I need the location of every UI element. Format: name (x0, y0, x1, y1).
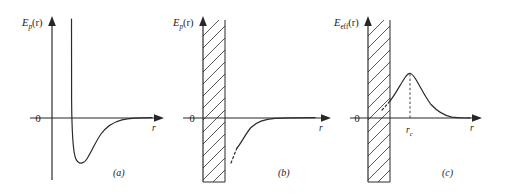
figure-container: Ep(r) 0 r (a) (0, 0, 506, 194)
panel-c-plot: Eeff(r) 0 rc r (c) (332, 0, 506, 194)
origin-zero-label: 0 (189, 113, 194, 124)
x-axis-arrowhead (472, 114, 482, 122)
panel-caption: (c) (442, 167, 454, 179)
x-axis-label: r (319, 123, 323, 133)
y-axis-label: Ep(r) (21, 17, 43, 31)
panel-c: Eeff(r) 0 rc r (c) (332, 0, 506, 194)
x-axis-label: r (470, 123, 474, 133)
panel-caption: (a) (113, 167, 125, 179)
panel-a: Ep(r) 0 r (a) (0, 0, 170, 194)
panel-a-plot: Ep(r) 0 r (a) (0, 0, 170, 194)
y-axis-arrowhead (364, 16, 372, 26)
peak-position-label: rc (406, 125, 413, 137)
hatched-forbidden-region (368, 14, 390, 194)
origin-zero-label: 0 (35, 113, 40, 124)
x-axis-arrowhead (321, 114, 331, 122)
y-axis-arrowhead (199, 16, 207, 26)
y-axis-arrowhead (48, 16, 56, 26)
potential-curve (237, 118, 315, 148)
panel-b: Ep(r) 0 r (b) (165, 0, 337, 194)
y-axis-label: Ep(r) (172, 17, 194, 31)
x-axis-arrowhead (154, 114, 164, 122)
hatched-forbidden-region (203, 14, 225, 194)
x-axis-label: r (152, 123, 156, 133)
panel-caption: (b) (278, 167, 290, 179)
effective-potential-curve (390, 73, 470, 118)
potential-curve-dashed-tail (231, 148, 237, 163)
potential-curve (72, 19, 153, 163)
panel-b-plot: Ep(r) 0 r (b) (165, 0, 337, 194)
origin-zero-label: 0 (354, 113, 359, 124)
y-axis-label: Eeff(r) (333, 17, 359, 31)
